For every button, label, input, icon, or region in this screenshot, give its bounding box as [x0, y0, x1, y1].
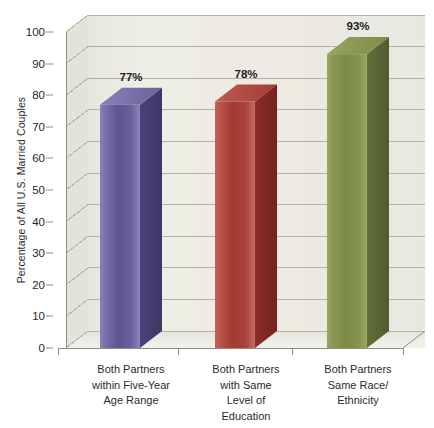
category-label-1-line-3: Age Range	[92, 393, 170, 409]
category-label-2-line-1: Both Partners	[212, 362, 279, 378]
bar-2	[215, 85, 277, 348]
category-label-1-line-2: within Five-Year	[92, 378, 170, 394]
bar-3	[327, 37, 389, 348]
category-label-1-line-1: Both Partners	[92, 362, 170, 378]
category-label-3-line-3: Ethnicity	[324, 393, 391, 409]
category-label-3-line-2: Same Race/	[324, 378, 391, 394]
category-label-2-line-2: with Same	[212, 378, 279, 394]
x-axis-category-labels: Both Partnerswithin Five-YearAge RangeBo…	[0, 362, 434, 428]
category-label-2: Both Partnerswith SameLevel ofEducation	[212, 362, 279, 424]
data-label-3: 93%	[346, 20, 369, 32]
bar-chart: Percentage of All U.S. Married Couples 0…	[0, 0, 434, 428]
category-label-1: Both Partnerswithin Five-YearAge Range	[92, 362, 170, 409]
data-label-1: 77%	[119, 71, 142, 83]
category-label-3-line-1: Both Partners	[324, 362, 391, 378]
bar-1	[100, 88, 162, 348]
data-label-2: 78%	[234, 68, 257, 80]
category-label-3: Both PartnersSame Race/Ethnicity	[324, 362, 391, 409]
category-label-2-line-3: Level of	[212, 393, 279, 409]
category-label-2-line-4: Education	[212, 409, 279, 425]
